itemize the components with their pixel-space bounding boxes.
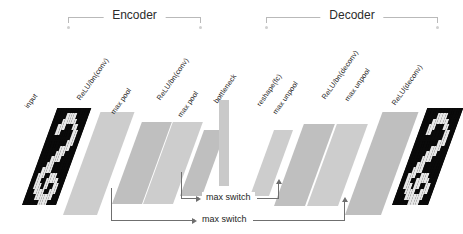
layer-label-max-unpool-2: max unpool bbox=[343, 67, 371, 103]
layer-label-relu-deconv: ReLU(deconv) bbox=[390, 63, 424, 107]
layer-max-pool-2 bbox=[180, 130, 202, 196]
layer-relu-deconv bbox=[392, 108, 428, 205]
bracket-tick-left bbox=[68, 17, 69, 23]
layer-relu-bn-conv-1 bbox=[63, 112, 97, 215]
max-switch-lower-source-run bbox=[111, 220, 194, 221]
bracket-tick-right bbox=[437, 17, 438, 23]
max-switch-upper-target-run bbox=[257, 198, 279, 199]
layer-max-pool-1 bbox=[112, 122, 142, 204]
layer-label-relu-bn-conv-1: ReLU/bn(conv) bbox=[75, 57, 110, 102]
layer-reshape-fc bbox=[250, 130, 269, 196]
section-bracket-encoder: Encoder bbox=[68, 2, 201, 24]
layer-relu-bn-deconv bbox=[307, 124, 338, 206]
max-switch-lower-label: max switch bbox=[198, 214, 251, 225]
max-switch-lower-target-run bbox=[253, 220, 345, 221]
bracket-tick-right bbox=[200, 17, 201, 23]
section-title-decoder: Decoder bbox=[320, 8, 383, 23]
layer-input bbox=[22, 108, 56, 205]
section-bracket-decoder: Decoder bbox=[266, 2, 438, 24]
output-image-panel bbox=[392, 108, 463, 205]
max-switch-upper-label-dot bbox=[196, 197, 199, 200]
max-switch-lower-target-stem bbox=[344, 201, 345, 221]
layer-label-max-pool-2: max pool bbox=[176, 90, 200, 119]
max-switch-upper-label: max switch bbox=[202, 192, 255, 203]
layer-label-relu-bn-conv-2: ReLU/bn(conv) bbox=[155, 57, 190, 102]
bracket-endpoint-left bbox=[265, 26, 268, 29]
bracket-tick-left bbox=[266, 17, 267, 23]
bracket-endpoint-right bbox=[199, 26, 202, 29]
max-switch-upper-arrow-out bbox=[276, 179, 282, 184]
layer-max-unpool-2 bbox=[345, 112, 381, 215]
bracket-endpoint-right bbox=[436, 26, 439, 29]
max-switch-lower-arrow-out bbox=[342, 197, 348, 202]
section-title-encoder: Encoder bbox=[103, 8, 166, 23]
max-switch-upper-source-stem bbox=[181, 172, 182, 199]
layer-plane bbox=[219, 100, 229, 186]
max-switch-lower-label-dot bbox=[192, 219, 195, 222]
bracket-endpoint-left bbox=[67, 26, 70, 29]
output-digit-raster bbox=[392, 108, 463, 205]
max-switch-lower-source-stem bbox=[111, 188, 112, 221]
layer-bottleneck bbox=[219, 100, 229, 186]
max-switch-upper-target-stem bbox=[278, 183, 279, 199]
layer-relu-bn-conv-2 bbox=[143, 122, 173, 204]
